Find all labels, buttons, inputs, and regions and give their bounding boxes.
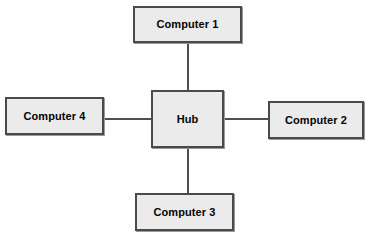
- diagram-canvas: Computer 1 Hub Computer 2 Computer 3 Com…: [0, 0, 372, 235]
- node-computer-1: Computer 1: [133, 6, 242, 43]
- link-hub-to-computer-2: [223, 118, 269, 120]
- node-computer-4-label: Computer 4: [23, 111, 85, 122]
- node-computer-2: Computer 2: [268, 101, 364, 139]
- node-hub: Hub: [151, 90, 224, 148]
- link-hub-to-computer-3: [187, 147, 189, 194]
- node-computer-4: Computer 4: [5, 97, 104, 135]
- node-computer-3-label: Computer 3: [153, 207, 215, 218]
- node-computer-3: Computer 3: [135, 193, 234, 231]
- node-computer-1-label: Computer 1: [156, 19, 218, 30]
- link-hub-to-computer-4: [103, 118, 152, 120]
- node-computer-2-label: Computer 2: [285, 115, 347, 126]
- node-hub-label: Hub: [177, 114, 199, 125]
- link-hub-to-computer-1: [187, 43, 189, 91]
